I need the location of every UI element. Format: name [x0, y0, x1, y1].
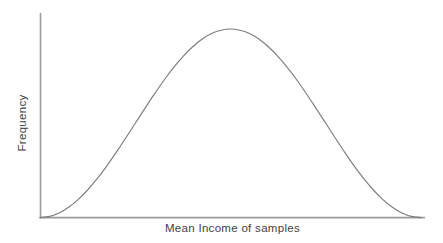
y-axis-label: Frequency: [16, 94, 28, 151]
distribution-curve: [40, 29, 421, 218]
bell-curve-figure: Frequency Mean Income of samples: [0, 0, 443, 243]
x-axis-label: Mean Income of samples: [40, 222, 425, 234]
plot-canvas: [0, 0, 443, 243]
